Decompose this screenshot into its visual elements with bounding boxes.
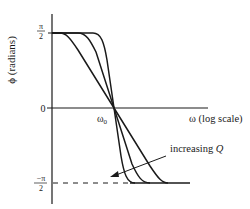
y-axis-label: ϕ (radians) <box>5 36 18 84</box>
svg-text:2: 2 <box>39 32 43 41</box>
phase-response-chart: ϕ (radians) π 2 0 −π 2 ω0 ω (log scale) <box>0 0 250 209</box>
svg-text:ω0: ω0 <box>97 113 108 126</box>
svg-text:2: 2 <box>39 184 43 193</box>
omega0-label: ω0 <box>97 113 108 126</box>
svg-text:−π: −π <box>37 174 46 183</box>
x-axis-label: ω (log scale) <box>189 113 243 125</box>
tick-zero: 0 <box>41 103 46 114</box>
svg-text:π: π <box>39 22 43 31</box>
arrow-head-icon <box>110 171 119 177</box>
tick-pi-over-2: π 2 <box>37 22 52 41</box>
tick-minus-pi-over-2: −π 2 <box>34 174 47 193</box>
svg-text:increasing Q: increasing Q <box>170 143 224 154</box>
